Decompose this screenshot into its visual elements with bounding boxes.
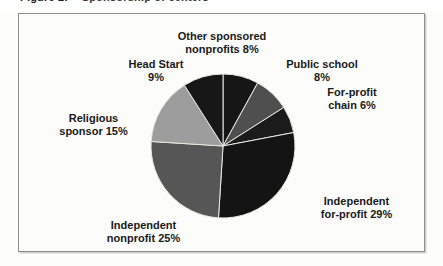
pie-label-head-start: Head Start 9% [101,58,211,84]
pie-label-line1: Independent [294,195,419,208]
pie-label-line1: Public school [262,58,382,71]
pie-label-other-sponsored-nonprofits: Other sponsored nonprofits 8% [147,30,297,56]
pie-slice-independent-for-profit [218,133,295,218]
figure-caption-number: Figure 2. [20,0,68,3]
pie-label-line2: for-profit 29% [294,208,419,221]
figure-caption-strip: Figure 2.Sponsorship of centers [0,0,443,11]
pie-label-line2: sponsor 15% [31,125,156,138]
pie-label-independent-for-profit: Independent for-profit 29% [294,195,419,221]
pie-label-line1: Independent [71,219,216,232]
pie-slice-independent-nonprofit [151,141,223,217]
pie-label-for-profit-chain: For-profit chain 6% [297,86,407,112]
pie-label-line2: 8% [262,71,382,84]
pie-label-line1: For-profit [297,86,407,99]
pie-label-religious-sponsor: Religious sponsor 15% [31,112,156,138]
figure-caption: Figure 2.Sponsorship of centers [20,0,209,3]
pie-label-line2: chain 6% [297,99,407,112]
pie-label-line2: nonprofits 8% [147,43,297,56]
pie-label-public-school: Public school 8% [262,58,382,84]
pie-label-line1: Religious [31,112,156,125]
pie-label-independent-nonprofit: Independent nonprofit 25% [71,219,216,245]
pie-label-line2: 9% [101,71,211,84]
pie-label-line1: Head Start [101,58,211,71]
figure-border-box: Other sponsored nonprofits 8% Head Start… [18,13,425,252]
pie-slice-group [151,74,295,218]
figure-caption-text: Sponsorship of centers [82,0,209,3]
pie-label-line1: Other sponsored [147,30,297,43]
figure-screenshot: Figure 2.Sponsorship of centers Other sp… [0,0,443,266]
pie-label-line2: nonprofit 25% [71,232,216,245]
